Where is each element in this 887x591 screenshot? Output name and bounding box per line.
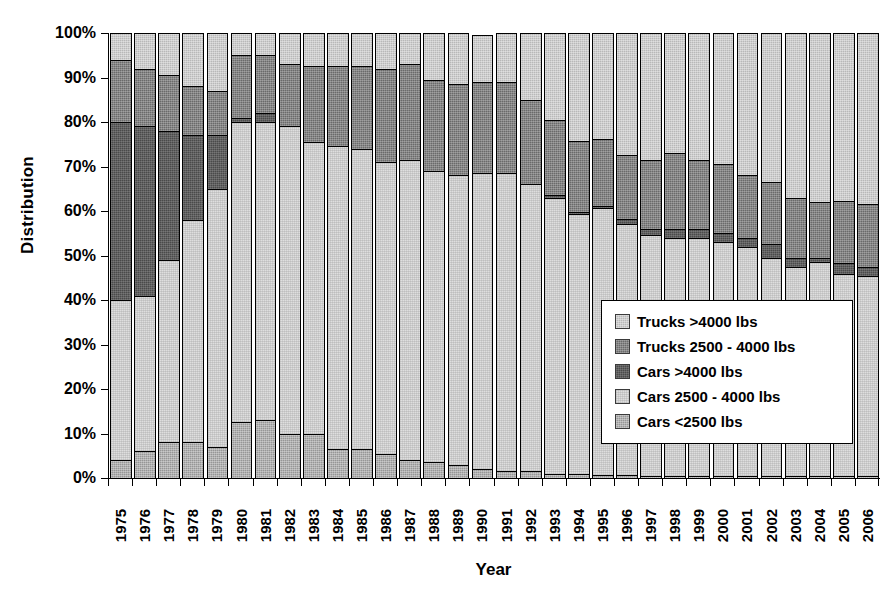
bar-1977[interactable]	[157, 33, 181, 478]
bar-segment	[472, 82, 494, 173]
bar-segment	[327, 33, 349, 66]
legend-item[interactable]: Cars <2500 lbs	[602, 409, 852, 434]
bar-1985[interactable]	[350, 33, 374, 478]
legend-item[interactable]: Cars >4000 lbs	[602, 359, 852, 384]
x-tick-label: 2004	[811, 509, 826, 542]
x-label-slot: 1986	[373, 488, 397, 554]
bar-segment	[399, 33, 421, 64]
bar-1988[interactable]	[422, 33, 446, 478]
bar-segment	[688, 229, 710, 238]
legend-item[interactable]: Trucks >4000 lbs	[602, 309, 852, 334]
y-tick-label: 50%	[34, 248, 96, 264]
x-tick-mark	[325, 479, 326, 486]
x-tick-mark	[734, 479, 735, 486]
bar-1983[interactable]	[302, 33, 326, 478]
y-tick-mark	[101, 434, 108, 435]
bar-segment	[351, 33, 373, 66]
bar-segment	[713, 476, 735, 478]
bar-stack	[496, 33, 518, 478]
x-tick-label: 2002	[763, 509, 778, 542]
bar-segment	[640, 160, 662, 229]
bar-1993[interactable]	[543, 33, 567, 478]
x-label-slot: 2003	[783, 488, 807, 554]
bar-segment	[399, 160, 421, 460]
legend-swatch-icon	[615, 314, 630, 329]
bar-segment	[520, 184, 542, 471]
bar-stack	[255, 33, 277, 478]
x-tick-label: 1984	[329, 509, 344, 542]
legend-swatch-icon	[615, 389, 630, 404]
x-label-slot: 2001	[734, 488, 758, 554]
x-tick-slot	[228, 479, 252, 487]
legend-label: Trucks 2500 - 4000 lbs	[637, 339, 795, 354]
bar-segment	[110, 122, 132, 300]
x-tick-mark	[156, 479, 157, 486]
bar-1976[interactable]	[133, 33, 157, 478]
x-tick-slot	[494, 479, 518, 487]
bar-1987[interactable]	[398, 33, 422, 478]
bar-1989[interactable]	[446, 33, 470, 478]
x-tick-mark	[710, 479, 711, 486]
x-tick-slot	[132, 479, 156, 487]
x-label-slot: 1998	[662, 488, 686, 554]
bar-1990[interactable]	[470, 33, 494, 478]
bar-2006[interactable]	[856, 33, 880, 478]
bar-1978[interactable]	[181, 33, 205, 478]
bar-1986[interactable]	[374, 33, 398, 478]
bar-segment	[351, 66, 373, 148]
x-tick-label: 1994	[570, 509, 585, 542]
y-tick-mark	[101, 33, 108, 34]
x-tick-slot	[638, 479, 662, 487]
y-tick-label: 60%	[34, 203, 96, 219]
x-tick-label: 1992	[522, 509, 537, 542]
bar-segment	[327, 66, 349, 146]
bar-1992[interactable]	[519, 33, 543, 478]
x-tick-slot	[807, 479, 831, 487]
bar-1975[interactable]	[109, 33, 133, 478]
x-tick-mark	[397, 479, 398, 486]
bar-1994[interactable]	[567, 33, 591, 478]
x-tick-slot	[855, 479, 879, 487]
x-label-slot: 1987	[397, 488, 421, 554]
x-tick-label: 1978	[185, 509, 200, 542]
bar-segment	[496, 82, 518, 173]
bar-1984[interactable]	[326, 33, 350, 478]
x-tick-slot	[373, 479, 397, 487]
y-tick-label: 10%	[34, 426, 96, 442]
legend-item[interactable]: Trucks 2500 - 4000 lbs	[602, 334, 852, 359]
x-label-slot: 1990	[469, 488, 493, 554]
bar-segment	[158, 131, 180, 260]
bar-segment	[761, 33, 783, 182]
bar-segment	[182, 220, 204, 443]
bar-1981[interactable]	[254, 33, 278, 478]
bar-stack	[472, 33, 494, 478]
bar-segment	[833, 201, 855, 263]
bar-segment	[520, 471, 542, 478]
bar-1982[interactable]	[278, 33, 302, 478]
x-label-slot: 1988	[421, 488, 445, 554]
x-label-slot: 1979	[204, 488, 228, 554]
bar-stack	[448, 33, 470, 478]
bar-segment	[375, 33, 397, 69]
x-tick-mark	[614, 479, 615, 486]
x-tick-mark	[469, 479, 470, 486]
bar-1991[interactable]	[495, 33, 519, 478]
x-label-slot: 1999	[686, 488, 710, 554]
x-label-slot: 1981	[253, 488, 277, 554]
bar-segment	[158, 33, 180, 75]
y-tick-mark	[101, 78, 108, 79]
x-tick-label: 1990	[474, 509, 489, 542]
bar-segment	[207, 447, 229, 478]
x-tick-label: 1998	[667, 509, 682, 542]
x-tick-label: 1997	[643, 509, 658, 542]
bar-1979[interactable]	[205, 33, 229, 478]
x-tick-slot	[397, 479, 421, 487]
bar-1980[interactable]	[229, 33, 253, 478]
y-tick-mark	[101, 167, 108, 168]
x-axis-title: Year	[108, 560, 879, 580]
bar-segment	[472, 469, 494, 478]
legend-item[interactable]: Cars 2500 - 4000 lbs	[602, 384, 852, 409]
x-tick-slot	[759, 479, 783, 487]
x-tick-label: 1979	[209, 509, 224, 542]
x-label-slot: 1992	[518, 488, 542, 554]
